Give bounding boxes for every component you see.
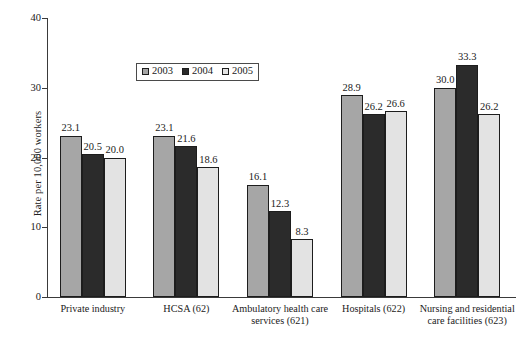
bar-value-label: 26.6 [378,99,414,110]
bar[interactable] [269,211,291,297]
legend-item[interactable]: 2005 [222,66,253,77]
legend: 200320042005 [136,63,259,81]
bar-group: 23.121.618.6 [153,18,219,297]
legend-label: 2005 [232,66,253,77]
y-axis-tick-label: 10 [0,222,41,233]
y-axis-tick-label: 0 [0,292,41,303]
bar-value-label: 28.9 [334,83,370,94]
legend-swatch-icon [142,68,149,75]
bar[interactable] [60,136,82,297]
bar[interactable] [104,158,126,298]
bar-group: 30.033.326.2 [434,18,500,297]
bar-chart: Rate per 10,000 workers 010203040 23.120… [0,0,531,340]
y-axis-tick-label: 40 [0,13,41,24]
bar-value-label: 8.3 [284,227,320,238]
bar-value-label: 16.1 [240,172,276,183]
bar-value-label: 26.2 [471,102,507,113]
bar[interactable] [363,114,385,297]
bar[interactable] [385,111,407,297]
bar-value-label: 33.3 [449,52,485,63]
bar-group: 16.112.38.3 [247,18,313,297]
bar[interactable] [291,239,313,297]
x-axis-line [47,297,516,298]
legend-swatch-icon [222,68,229,75]
bar[interactable] [153,136,175,297]
bar[interactable] [478,114,500,297]
bar-group: 23.120.520.0 [60,18,126,297]
plot-area: 23.120.520.023.121.618.616.112.38.328.92… [48,18,516,297]
legend-label: 2003 [152,66,173,77]
y-axis-tick-label: 20 [0,152,41,163]
bar[interactable] [456,65,478,297]
x-axis-label: Nursing and residentialcare facilities (… [405,303,529,327]
bar[interactable] [434,88,456,297]
legend-swatch-icon [182,68,189,75]
legend-item[interactable]: 2003 [142,66,173,77]
bar-value-label: 12.3 [262,199,298,210]
bar-value-label: 23.1 [53,123,89,134]
bar-value-label: 20.0 [97,145,133,156]
bar-group: 28.926.226.6 [341,18,407,297]
bar[interactable] [197,167,219,297]
bar-value-label: 21.6 [168,134,204,145]
legend-label: 2004 [192,66,213,77]
bar[interactable] [175,146,197,297]
bar[interactable] [82,154,104,297]
y-axis-title: Rate per 10,000 workers [32,64,43,264]
bar-value-label: 18.6 [190,155,226,166]
bar[interactable] [341,95,363,297]
y-axis-tick-label: 30 [0,83,41,94]
legend-item[interactable]: 2004 [182,66,213,77]
